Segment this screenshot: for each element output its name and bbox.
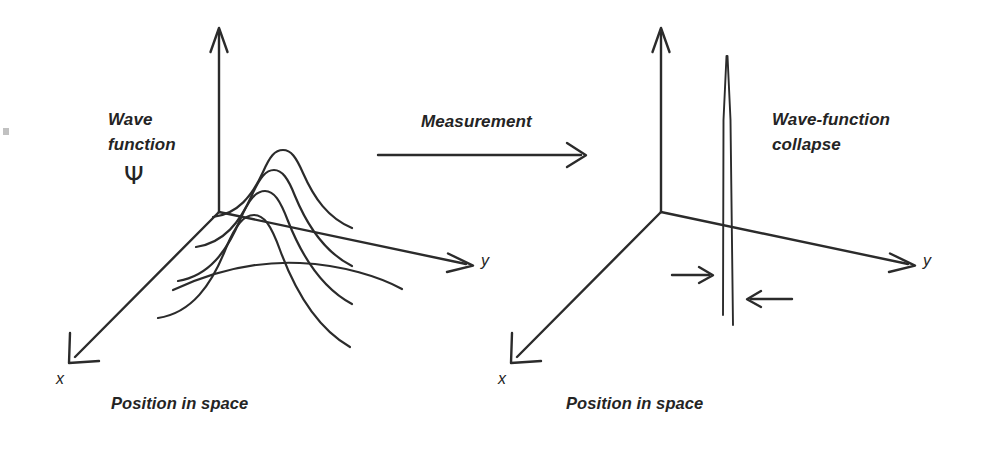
wave-function-collapse-figure: Wave function Ψ Measurement Wave-functio… [0,0,981,452]
right-axis-y-label: y [923,250,931,272]
left-axis-x-label: x [56,368,64,390]
right-axes [511,28,915,363]
right-annotation-line2: collapse [772,133,841,156]
left-axes [69,28,473,363]
right-axis-x-label: x [498,368,506,390]
left-x-axis [75,212,219,357]
measurement-arrow [378,143,586,167]
wave-packet-curves [158,150,402,347]
collapsed-spike [723,56,733,325]
left-y-axis [219,212,466,264]
psi-symbol: Ψ [124,159,144,194]
wave-curve-front [158,215,350,347]
right-annotation-line1: Wave-function [772,108,890,131]
collapsed-spike-right-edge [728,56,734,325]
left-axis-y-label: y [481,250,489,272]
left-caption: Position in space [111,392,248,415]
collapsed-spike-left-edge [723,56,727,315]
left-annotation-line2: function [108,133,176,156]
right-caption: Position in space [566,392,703,415]
scan-artifact-speck [3,128,9,135]
right-x-axis [517,212,661,357]
left-annotation-line1: Wave [108,108,153,131]
diagram-canvas [0,0,981,452]
measurement-label: Measurement [421,110,532,133]
right-y-axis [661,212,908,264]
